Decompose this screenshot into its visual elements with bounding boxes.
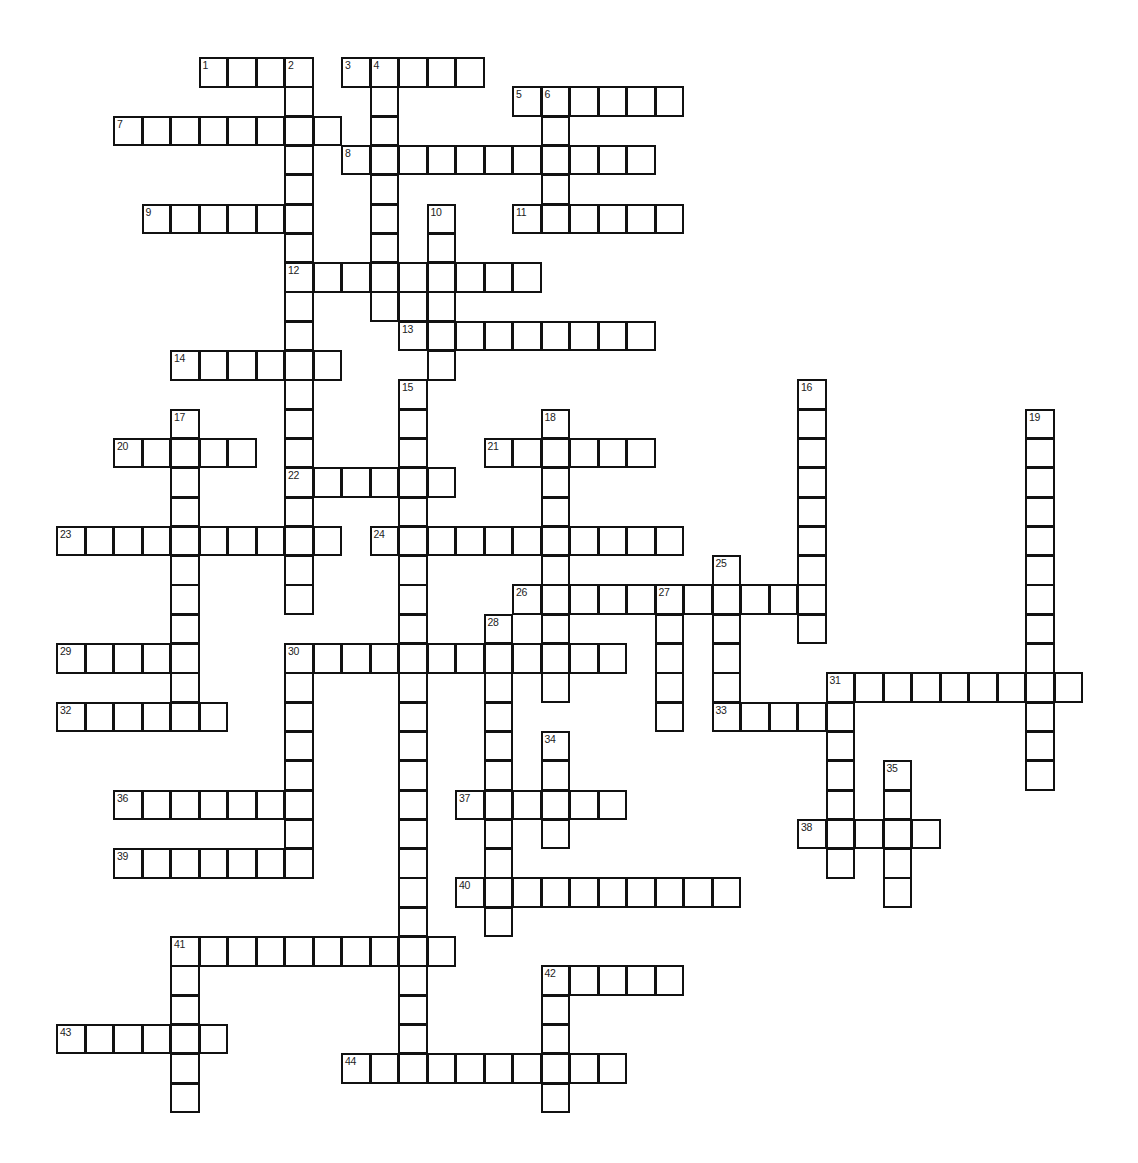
crossword-cell[interactable] [284, 379, 314, 410]
crossword-cell[interactable] [598, 1053, 628, 1084]
crossword-cell[interactable] [712, 877, 742, 908]
crossword-cell[interactable] [427, 262, 457, 293]
crossword-cell[interactable] [227, 57, 257, 88]
crossword-cell[interactable] [142, 790, 172, 821]
crossword-cell[interactable] [797, 584, 827, 615]
crossword-cell[interactable] [170, 204, 200, 235]
crossword-cell[interactable] [370, 86, 400, 117]
crossword-cell[interactable] [284, 702, 314, 733]
crossword-cell[interactable] [541, 438, 571, 469]
crossword-cell[interactable] [170, 526, 200, 557]
crossword-cell[interactable] [284, 174, 314, 205]
crossword-cell[interactable] [398, 702, 428, 733]
crossword-cell[interactable]: 44 [341, 1053, 371, 1084]
crossword-cell[interactable] [455, 145, 485, 176]
crossword-cell[interactable] [370, 174, 400, 205]
crossword-cell[interactable] [626, 145, 656, 176]
crossword-cell[interactable] [911, 819, 941, 850]
crossword-cell[interactable] [427, 233, 457, 264]
crossword-cell[interactable] [170, 497, 200, 528]
crossword-cell[interactable] [398, 614, 428, 645]
crossword-cell[interactable] [1025, 643, 1055, 674]
crossword-cell[interactable] [170, 555, 200, 586]
crossword-cell[interactable] [569, 145, 599, 176]
crossword-cell[interactable] [427, 145, 457, 176]
crossword-cell[interactable] [854, 672, 884, 703]
crossword-cell[interactable] [883, 848, 913, 879]
crossword-cell[interactable]: 16 [797, 379, 827, 410]
crossword-cell[interactable] [883, 819, 913, 850]
crossword-cell[interactable] [655, 614, 685, 645]
crossword-cell[interactable]: 36 [113, 790, 143, 821]
crossword-cell[interactable] [170, 1083, 200, 1114]
crossword-cell[interactable] [227, 116, 257, 147]
crossword-cell[interactable] [227, 936, 257, 967]
crossword-cell[interactable] [284, 936, 314, 967]
crossword-cell[interactable] [598, 204, 628, 235]
crossword-cell[interactable] [854, 819, 884, 850]
crossword-cell[interactable] [199, 350, 229, 381]
crossword-cell[interactable] [170, 438, 200, 469]
crossword-cell[interactable] [85, 1024, 115, 1055]
crossword-cell[interactable] [484, 790, 514, 821]
crossword-cell[interactable] [569, 204, 599, 235]
crossword-cell[interactable]: 14 [170, 350, 200, 381]
crossword-cell[interactable] [569, 584, 599, 615]
crossword-cell[interactable]: 40 [455, 877, 485, 908]
crossword-cell[interactable] [655, 702, 685, 733]
crossword-cell[interactable] [826, 790, 856, 821]
crossword-cell[interactable] [398, 57, 428, 88]
crossword-cell[interactable] [427, 526, 457, 557]
crossword-cell[interactable] [142, 438, 172, 469]
crossword-cell[interactable] [199, 848, 229, 879]
crossword-cell[interactable] [826, 702, 856, 733]
crossword-cell[interactable] [170, 672, 200, 703]
crossword-cell[interactable] [512, 438, 542, 469]
crossword-cell[interactable]: 30 [284, 643, 314, 674]
crossword-cell[interactable] [626, 526, 656, 557]
crossword-cell[interactable] [541, 321, 571, 352]
crossword-cell[interactable]: 23 [56, 526, 86, 557]
crossword-cell[interactable] [113, 702, 143, 733]
crossword-cell[interactable] [1025, 731, 1055, 762]
crossword-cell[interactable] [284, 584, 314, 615]
crossword-cell[interactable] [256, 790, 286, 821]
crossword-cell[interactable] [313, 643, 343, 674]
crossword-cell[interactable] [541, 760, 571, 791]
crossword-cell[interactable] [484, 672, 514, 703]
crossword-cell[interactable] [569, 643, 599, 674]
crossword-cell[interactable] [598, 584, 628, 615]
crossword-cell[interactable] [541, 672, 571, 703]
crossword-cell[interactable] [655, 672, 685, 703]
crossword-cell[interactable] [427, 321, 457, 352]
crossword-cell[interactable]: 37 [455, 790, 485, 821]
crossword-cell[interactable] [598, 86, 628, 117]
crossword-cell[interactable]: 38 [797, 819, 827, 850]
crossword-cell[interactable] [170, 1053, 200, 1084]
crossword-cell[interactable] [883, 672, 913, 703]
crossword-cell[interactable] [826, 760, 856, 791]
crossword-cell[interactable] [370, 145, 400, 176]
crossword-cell[interactable] [626, 204, 656, 235]
crossword-cell[interactable] [284, 497, 314, 528]
crossword-cell[interactable] [598, 643, 628, 674]
crossword-cell[interactable] [1025, 584, 1055, 615]
crossword-cell[interactable] [598, 526, 628, 557]
crossword-cell[interactable] [797, 526, 827, 557]
crossword-cell[interactable] [398, 1024, 428, 1055]
crossword-cell[interactable] [170, 848, 200, 879]
crossword-cell[interactable] [797, 438, 827, 469]
crossword-cell[interactable] [370, 936, 400, 967]
crossword-cell[interactable] [740, 584, 770, 615]
crossword-cell[interactable] [569, 1053, 599, 1084]
crossword-cell[interactable] [398, 526, 428, 557]
crossword-cell[interactable] [398, 291, 428, 322]
crossword-cell[interactable] [113, 526, 143, 557]
crossword-cell[interactable] [683, 877, 713, 908]
crossword-cell[interactable] [569, 86, 599, 117]
crossword-cell[interactable] [683, 584, 713, 615]
crossword-cell[interactable]: 9 [142, 204, 172, 235]
crossword-cell[interactable] [341, 643, 371, 674]
crossword-cell[interactable] [598, 438, 628, 469]
crossword-cell[interactable] [85, 702, 115, 733]
